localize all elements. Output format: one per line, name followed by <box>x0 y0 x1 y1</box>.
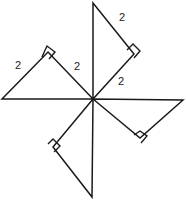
top-right-triangle <box>93 3 134 99</box>
geometry-figure-container: Pinwheel figure of four congruent right … <box>0 0 186 200</box>
length-label-upper-left-inner: 2 <box>74 60 80 72</box>
length-label-top-right-hypotenuse: 2 <box>119 11 125 23</box>
length-label-top-right-lower: 2 <box>118 75 124 87</box>
bottom-left-triangle <box>53 99 93 197</box>
triangle-group <box>2 3 183 197</box>
pinwheel-diagram: Pinwheel figure of four congruent right … <box>0 0 186 200</box>
length-label-upper-left-outer: 2 <box>15 59 21 71</box>
right-angle-mark-top-right-icon <box>127 44 140 58</box>
